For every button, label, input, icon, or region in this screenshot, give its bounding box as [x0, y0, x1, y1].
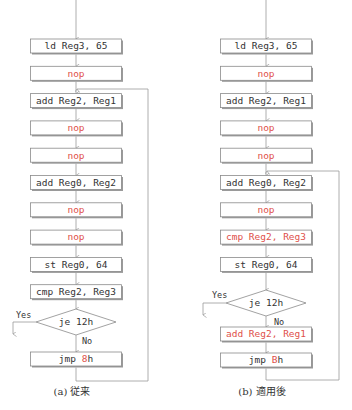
instruction-box: st Reg0, 64: [31, 257, 124, 273]
instruction-text: ld Reg3, 65: [235, 40, 298, 51]
instruction-text: add Reg0, Reg2: [36, 177, 116, 188]
no-label: No: [274, 317, 284, 327]
instruction-text: add Reg2, Reg1: [226, 95, 306, 106]
decision-je: je 12h: [36, 309, 116, 335]
instruction-text: nop: [257, 204, 274, 215]
instruction-text: nop: [257, 122, 274, 133]
instruction-box: add Reg2, Reg1: [221, 327, 314, 343]
instruction-text: nop: [67, 122, 84, 133]
yes-label: Yes: [212, 290, 227, 300]
instruction-text: add Reg0, Reg2: [226, 177, 306, 188]
instruction-box: nop: [221, 66, 314, 82]
instruction-text: nop: [67, 150, 84, 161]
instruction-box: nop: [31, 121, 124, 136]
instruction-box: nop: [31, 230, 124, 246]
instruction-box: ld Reg3, 65: [221, 39, 314, 55]
instruction-box: nop: [31, 148, 124, 164]
instruction-text: ld Reg3, 65: [45, 40, 108, 51]
instruction-box: nop: [221, 148, 314, 164]
instruction-text: cmp Reg2, Reg3: [36, 286, 116, 297]
jump-text: jmp 8h: [59, 353, 93, 364]
jump-box: jmp 8h: [31, 352, 124, 368]
instruction-box: add Reg2, Reg1: [221, 94, 314, 110]
instruction-box: ld Reg3, 65: [31, 39, 124, 55]
instruction-box: nop: [31, 203, 124, 219]
instruction-box: cmp Reg2, Reg3: [31, 285, 124, 301]
instruction-box: cmp Reg2, Reg3: [221, 230, 314, 246]
instruction-box: nop: [31, 66, 124, 82]
instruction-text: nop: [257, 150, 274, 161]
decision-je: je 12h: [226, 290, 306, 316]
instruction-text: nop: [257, 68, 274, 79]
flowchart-canvas: ld Reg3, 65nopadd Reg2, Reg1nopnopadd Re…: [0, 0, 352, 410]
jump-box: jmp Bh: [221, 353, 314, 369]
caption: (a) 従来: [54, 385, 91, 397]
instruction-text: cmp Reg2, Reg3: [226, 231, 306, 242]
instruction-box: add Reg0, Reg2: [221, 176, 314, 192]
decision-text: je 12h: [249, 297, 283, 308]
yes-label: Yes: [16, 310, 31, 320]
instruction-text: add Reg2, Reg1: [226, 328, 306, 339]
instruction-box: nop: [221, 121, 314, 136]
flowchart-before: ld Reg3, 65nopadd Reg2, Reg1nopnopadd Re…: [13, 0, 148, 397]
instruction-box: nop: [221, 203, 314, 219]
jump-text: jmp Bh: [249, 354, 283, 365]
instruction-text: nop: [67, 68, 84, 79]
instruction-box: add Reg2, Reg1: [31, 94, 124, 110]
no-label: No: [82, 336, 92, 346]
instruction-text: st Reg0, 64: [45, 259, 108, 270]
flowchart-after: ld Reg3, 65nopadd Reg2, Reg1nopnopadd Re…: [203, 0, 339, 397]
caption: (b) 適用後: [238, 385, 285, 397]
instruction-box: add Reg0, Reg2: [31, 176, 124, 192]
instruction-text: nop: [67, 231, 84, 242]
instruction-text: st Reg0, 64: [235, 259, 298, 270]
decision-text: je 12h: [59, 316, 93, 327]
instruction-box: st Reg0, 64: [221, 257, 314, 273]
instruction-text: nop: [67, 204, 84, 215]
instruction-text: add Reg2, Reg1: [36, 95, 116, 106]
